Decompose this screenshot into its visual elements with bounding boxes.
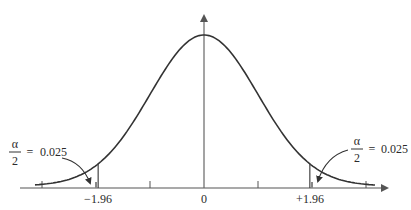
left-annotation-arrow: [62, 158, 90, 183]
left-alpha-numerator: α: [12, 137, 19, 151]
right-critical-label: +1.96: [296, 192, 324, 206]
normal-curve: [35, 35, 375, 185]
right-alpha-numerator: α: [354, 134, 361, 148]
zero-label: 0: [201, 192, 207, 206]
left-alpha-value: 0.025: [40, 145, 67, 159]
left-equals: =: [27, 145, 34, 159]
left-tail-marker: [95, 182, 97, 188]
left-alpha-denominator: 2: [12, 154, 18, 168]
right-annotation-arrow: [318, 150, 348, 181]
right-alpha-denominator: 2: [354, 151, 360, 165]
left-critical-label: −1.96: [84, 192, 112, 206]
right-alpha-value: 0.025: [381, 142, 408, 156]
left-alpha-annotation: α 2 = 0.025: [9, 137, 67, 168]
right-alpha-annotation: α 2 = 0.025: [351, 134, 408, 165]
right-equals: =: [369, 142, 376, 156]
normal-distribution-diagram: 0 −1.96 +1.96 α 2 = 0.025 α 2 = 0.025: [0, 0, 411, 210]
right-tail-marker: [311, 182, 313, 188]
